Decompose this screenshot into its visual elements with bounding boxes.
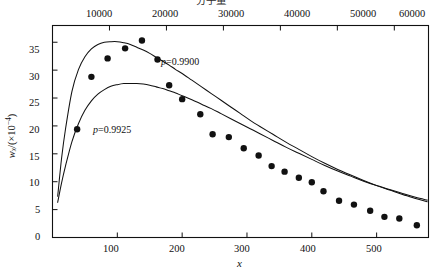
- curve-p-0-9900: [58, 42, 428, 202]
- data-point: [367, 208, 373, 214]
- data-point: [209, 131, 215, 137]
- data-point: [309, 179, 315, 185]
- data-point: [396, 215, 402, 221]
- data-points: [74, 37, 420, 228]
- data-point: [320, 188, 326, 194]
- data-point: [241, 145, 247, 151]
- data-point: [104, 55, 110, 61]
- data-point: [296, 175, 302, 181]
- data-point: [381, 214, 387, 220]
- data-point: [139, 37, 145, 43]
- data-point: [281, 168, 287, 174]
- data-point: [336, 197, 342, 203]
- curve-p-0-9925: [58, 83, 428, 202]
- data-point: [166, 82, 172, 88]
- data-point: [179, 96, 185, 102]
- data-point: [268, 163, 274, 169]
- data-point: [122, 45, 128, 51]
- data-point: [88, 74, 94, 80]
- data-point: [197, 111, 203, 117]
- chart-figure: 分子量 10000 20000 30000 40000 50000 60000 …: [0, 0, 435, 272]
- data-point: [414, 222, 420, 228]
- data-point: [255, 152, 261, 158]
- data-point: [74, 126, 80, 132]
- fitted-curves: [58, 42, 428, 203]
- data-point: [226, 134, 232, 140]
- axis-ticks: [53, 26, 395, 238]
- plot-canvas: [0, 0, 435, 272]
- data-point: [154, 56, 160, 62]
- data-point: [351, 201, 357, 207]
